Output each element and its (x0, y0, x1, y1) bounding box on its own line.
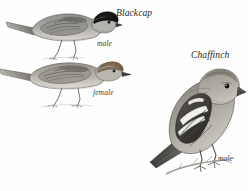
blackcap-female-sex-label: female (93, 89, 114, 97)
blackcap-female-illustration (0, 52, 132, 108)
blackcap-species-label: Blackcap (116, 9, 152, 19)
chaffinch-species-label: Chaffinch (191, 51, 229, 61)
blackcap-male-sex-label: male (97, 40, 112, 48)
bird-illustration-plate: Blackcap male (0, 0, 248, 191)
chaffinch-male-sex-label: male (218, 155, 233, 163)
